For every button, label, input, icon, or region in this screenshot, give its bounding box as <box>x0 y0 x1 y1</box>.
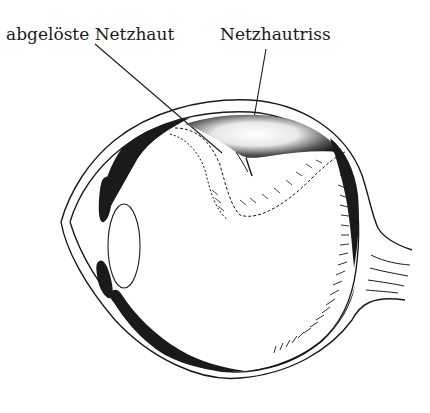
lens <box>108 204 140 288</box>
optic-nerve <box>366 255 410 293</box>
choroid-lower-right <box>245 285 355 371</box>
retina-hatching <box>274 175 349 353</box>
retina-right-band <box>330 138 359 268</box>
iris-upper <box>99 177 112 223</box>
choroid-lower <box>110 290 245 371</box>
fold-hatching <box>212 160 322 211</box>
eye-diagram <box>0 0 430 413</box>
